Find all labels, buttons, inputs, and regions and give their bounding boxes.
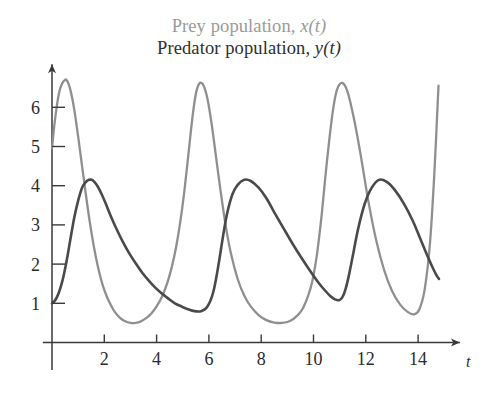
x-tick-label: 4: [152, 349, 161, 369]
axes-group: [43, 64, 460, 370]
x-tick-label: 14: [409, 349, 427, 369]
y-tick-label: 1: [31, 294, 40, 314]
y-tick-label: 6: [31, 98, 40, 118]
y-tick-label: 5: [31, 137, 40, 157]
ticks-group: 2468101214123456t: [31, 98, 471, 370]
x-tick-label: 10: [305, 349, 323, 369]
x-tick-label: 8: [257, 349, 266, 369]
x-axis-label: t: [466, 353, 471, 370]
plot-area: 2468101214123456t: [0, 0, 498, 397]
y-tick-label: 4: [31, 176, 40, 196]
y-tick-label: 2: [31, 255, 40, 275]
series-group: [52, 79, 439, 323]
lotka-volterra-figure: Prey population, x(t) Predator populatio…: [0, 0, 498, 397]
x-tick-label: 12: [357, 349, 375, 369]
predator-curve: [52, 179, 439, 311]
y-tick-label: 3: [31, 215, 40, 235]
prey-curve: [52, 79, 439, 323]
x-tick-label: 6: [204, 349, 213, 369]
x-tick-label: 2: [100, 349, 109, 369]
